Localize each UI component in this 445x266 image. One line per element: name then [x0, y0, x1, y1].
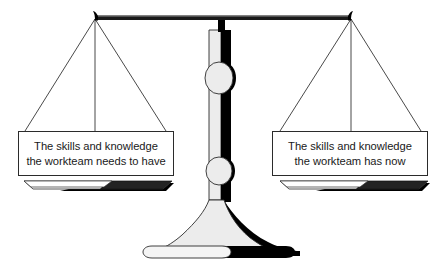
left-string-outer-right	[95, 19, 166, 131]
column-upper-knob	[205, 62, 236, 94]
right-string-outer-right	[351, 19, 421, 131]
beam-highlight	[98, 16, 348, 17]
right-pan-light-edge	[280, 181, 368, 187]
right-string-outer-left	[280, 19, 351, 131]
left-pan-label-line-1: The skills and knowledge	[34, 139, 158, 154]
base-cone	[160, 200, 270, 249]
column-top-post	[218, 18, 225, 32]
upper-knob-body	[205, 62, 233, 94]
left-pan-light-edge	[24, 181, 112, 187]
right-pan-label-line-2: the workteam has now	[295, 154, 406, 169]
lower-knob-body	[206, 157, 232, 185]
column-lower-knob	[206, 157, 235, 185]
left-suspension-strings	[25, 19, 166, 131]
right-pan-plate	[280, 181, 430, 191]
right-pan-label-line-1: The skills and knowledge	[288, 139, 412, 154]
balance-scale-diagram: The skills and knowledge the workteam ne…	[0, 0, 445, 266]
left-string-outer-left	[25, 19, 95, 131]
left-pan-label-line-2: the workteam needs to have	[26, 154, 165, 169]
beam-left-tip	[93, 11, 98, 21]
right-suspension-strings	[280, 19, 421, 131]
left-pan-plate	[24, 181, 174, 191]
base-foot	[143, 246, 231, 258]
right-pan-label-box: The skills and knowledge the workteam ha…	[272, 131, 428, 176]
left-pan-label-box: The skills and knowledge the workteam ne…	[18, 131, 174, 176]
scale-beam	[93, 11, 353, 21]
beam-right-tip	[348, 11, 353, 21]
